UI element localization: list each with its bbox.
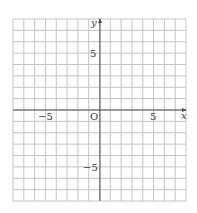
axes [13, 18, 187, 201]
y-tick-label-5: 5 [90, 48, 96, 59]
x-tick-label-5: 5 [150, 111, 156, 122]
x-axis-label: x [181, 110, 187, 121]
x-tick-label-neg5: −5 [38, 111, 53, 122]
y-tick-label-neg5: −5 [83, 162, 98, 173]
y-axis-label: y [90, 17, 97, 28]
coordinate-plane: y x O −5 5 5 −5 [0, 0, 197, 213]
origin-label: O [90, 111, 98, 122]
